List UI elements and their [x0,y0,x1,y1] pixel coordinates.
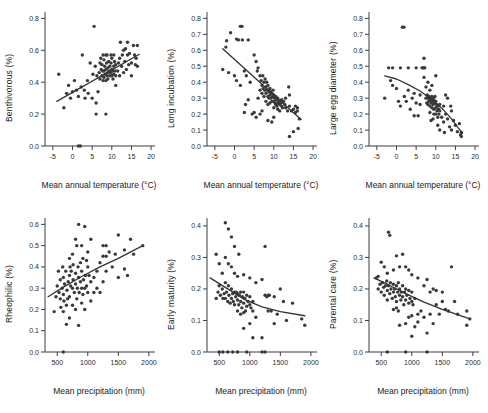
svg-text:0.0: 0.0 [191,349,201,356]
svg-text:0.4: 0.4 [191,222,201,229]
svg-text:500: 500 [213,359,225,366]
y-axis-label: Long incubation (%) [164,6,178,170]
y-axis-label: Large egg diameter (%) [326,6,340,170]
svg-text:0.5: 0.5 [191,63,201,70]
svg-text:0.3: 0.3 [353,254,363,261]
svg-text:500: 500 [375,359,387,366]
svg-text:1500: 1500 [435,359,451,366]
svg-text:0.7: 0.7 [353,31,363,38]
y-axis-label: Benthivorous (%) [2,6,16,170]
svg-text:0.2: 0.2 [191,111,201,118]
x-axis-label: Mean precipitation (mm) [197,386,325,396]
x-axis-label: Mean precipitation (mm) [359,386,487,396]
svg-text:5: 5 [414,153,418,160]
svg-text:1500: 1500 [273,359,289,366]
svg-text:500: 500 [51,359,63,366]
svg-text:1000: 1000 [404,359,420,366]
svg-text:0.6: 0.6 [29,47,39,54]
panel-early-maturity: Early maturity (%) 0.00.10.20.30.4500100… [163,206,325,412]
svg-text:0.4: 0.4 [353,79,363,86]
svg-text:0.3: 0.3 [353,95,363,102]
svg-text:20: 20 [471,153,479,160]
panel-benthivorous: Benthivorous (%) 0.00.20.40.60.8-5051015… [1,0,163,206]
svg-text:20: 20 [309,153,317,160]
x-axis-label: Mean annual temperature (°C) [359,180,487,190]
svg-text:0.5: 0.5 [29,242,39,249]
svg-text:0: 0 [233,153,237,160]
panel-large-egg-diameter: Large egg diameter (%) 0.00.10.20.30.40.… [325,0,487,206]
panel-grid: Benthivorous (%) 0.00.20.40.60.8-5051015… [0,0,488,412]
scatter-plot-large-egg-diameter: 0.00.10.20.30.40.50.60.70.8-505101520 [341,4,483,176]
scatter-plot-rheophilic: 0.00.10.20.30.40.50.6500100015002000 [17,210,159,382]
svg-text:10: 10 [108,153,116,160]
svg-text:0.8: 0.8 [353,15,363,22]
svg-text:0.1: 0.1 [191,127,201,134]
svg-text:0.2: 0.2 [191,285,201,292]
svg-text:0.0: 0.0 [353,143,363,150]
svg-text:0.4: 0.4 [29,263,39,270]
svg-text:0.0: 0.0 [353,349,363,356]
svg-text:0.3: 0.3 [191,254,201,261]
svg-text:0.4: 0.4 [29,79,39,86]
multi-panel-scatter-figure: Benthivorous (%) 0.00.20.40.60.8-5051015… [0,0,488,413]
scatter-plot-benthivorous: 0.00.20.40.60.8-505101520 [17,4,159,176]
x-axis-label: Mean annual temperature (°C) [197,180,325,190]
svg-text:0.3: 0.3 [29,285,39,292]
panel-long-incubation: Long incubation (%) 0.00.10.20.30.40.50.… [163,0,325,206]
svg-text:0.2: 0.2 [353,285,363,292]
svg-text:10: 10 [432,153,440,160]
svg-text:0.2: 0.2 [29,111,39,118]
svg-text:0: 0 [395,153,399,160]
svg-text:-5: -5 [50,153,56,160]
svg-text:0.6: 0.6 [29,221,39,228]
svg-text:1500: 1500 [111,359,127,366]
svg-text:5: 5 [90,153,94,160]
panel-rheophilic: Rheophilic (%) 0.00.10.20.30.40.50.65001… [1,206,163,412]
svg-text:0.5: 0.5 [353,63,363,70]
svg-text:0.1: 0.1 [191,317,201,324]
scatter-plot-long-incubation: 0.00.10.20.30.40.50.60.70.8-505101520 [179,4,321,176]
svg-text:0: 0 [71,153,75,160]
svg-text:0.1: 0.1 [29,327,39,334]
svg-text:-5: -5 [212,153,218,160]
svg-text:0.7: 0.7 [191,31,201,38]
svg-text:0.2: 0.2 [29,306,39,313]
y-axis-label: Parental care (%) [326,212,340,376]
svg-text:0.1: 0.1 [353,127,363,134]
svg-text:0.8: 0.8 [29,15,39,22]
svg-text:2000: 2000 [465,359,481,366]
panel-parental-care: Parental care (%) 0.00.10.20.30.45001000… [325,206,487,412]
svg-text:1000: 1000 [242,359,258,366]
svg-text:15: 15 [128,153,136,160]
svg-text:15: 15 [290,153,298,160]
svg-text:20: 20 [147,153,155,160]
svg-text:1000: 1000 [80,359,96,366]
svg-text:2000: 2000 [303,359,319,366]
svg-text:0.2: 0.2 [353,111,363,118]
y-axis-label: Rheophilic (%) [2,212,16,376]
svg-text:0.6: 0.6 [191,47,201,54]
svg-text:0.0: 0.0 [191,143,201,150]
svg-text:5: 5 [252,153,256,160]
svg-text:10: 10 [270,153,278,160]
svg-text:0.4: 0.4 [353,222,363,229]
svg-text:-5: -5 [374,153,380,160]
svg-text:0.6: 0.6 [353,47,363,54]
scatter-plot-parental-care: 0.00.10.20.30.4500100015002000 [341,210,483,382]
y-axis-label: Early maturity (%) [164,212,178,376]
svg-text:15: 15 [452,153,460,160]
svg-text:0.0: 0.0 [29,349,39,356]
scatter-plot-early-maturity: 0.00.10.20.30.4500100015002000 [179,210,321,382]
svg-text:0.4: 0.4 [191,79,201,86]
svg-text:0.1: 0.1 [353,317,363,324]
svg-text:0.3: 0.3 [191,95,201,102]
x-axis-label: Mean precipitation (mm) [35,386,163,396]
svg-text:2000: 2000 [141,359,157,366]
x-axis-label: Mean annual temperature (°C) [35,180,163,190]
svg-text:0.8: 0.8 [191,15,201,22]
svg-text:0.0: 0.0 [29,143,39,150]
